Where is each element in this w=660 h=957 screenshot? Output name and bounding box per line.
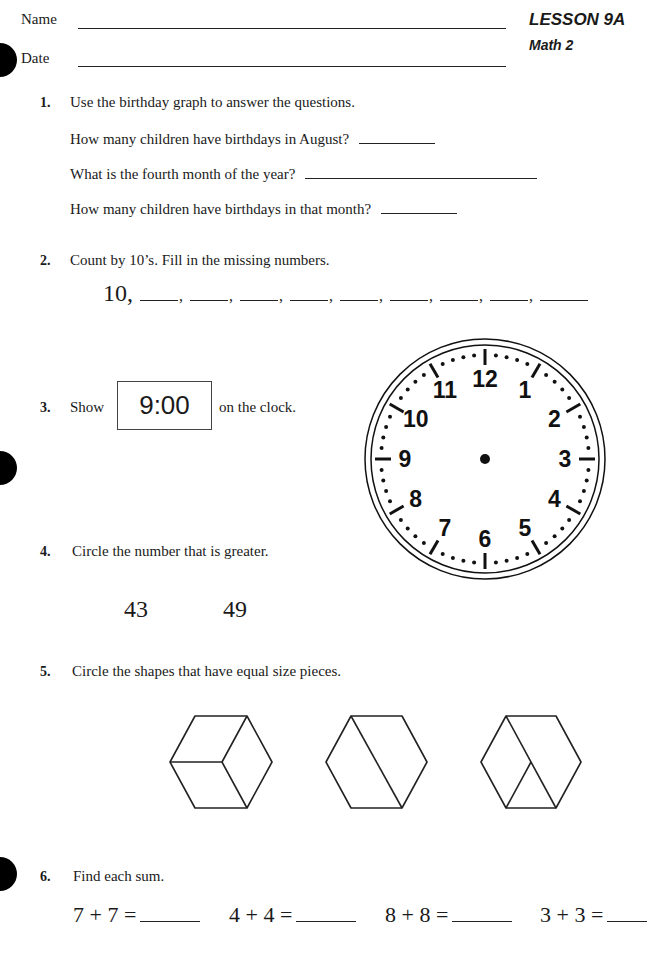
date-label: Date (21, 50, 49, 67)
target-time-box: 9:00 (117, 381, 212, 430)
answer-august-field[interactable] (359, 129, 435, 144)
clock-number-10: 10 (403, 406, 429, 432)
question-1a: How many children have birthdays in Augu… (70, 129, 435, 148)
sum-problem-1: 7 + 7 = (73, 902, 200, 928)
sum-problem-3: 8 + 8 = (385, 902, 512, 928)
number-option-43[interactable]: 43 (124, 596, 148, 623)
hole-punch-top (0, 43, 17, 77)
clock-number-9: 9 (399, 446, 412, 472)
question-5-number: 5. (40, 664, 51, 680)
clock-number-3: 3 (559, 446, 572, 472)
clock-number-11: 11 (433, 377, 458, 403)
lesson-title: LESSON 9A (529, 10, 625, 30)
subject-label: Math 2 (529, 37, 573, 53)
question-6-number: 6. (40, 869, 51, 885)
sequence-blank[interactable] (390, 282, 428, 301)
sum-expression: 8 + 8 = (385, 902, 448, 927)
sequence-blank[interactable] (240, 282, 278, 301)
question-3-show: Show (70, 399, 104, 416)
sum-problem-4: 3 + 3 = (540, 902, 647, 928)
shape-hexagon-3[interactable] (481, 716, 581, 808)
clock-number-12: 12 (472, 366, 498, 392)
shape-hexagon-2[interactable] (326, 716, 427, 808)
sequence-blank[interactable] (440, 282, 478, 301)
question-1b: What is the fourth month of the year? (70, 164, 537, 183)
question-6-prompt: Find each sum. (73, 868, 164, 885)
sequence-blank[interactable] (190, 282, 228, 301)
question-1-prompt: Use the birthday graph to answer the que… (70, 94, 355, 111)
answer-fourth-month-field[interactable] (305, 164, 537, 179)
sum-expression: 4 + 4 = (229, 902, 292, 927)
hole-punch-bottom (0, 857, 17, 891)
clock-number-8: 8 (409, 486, 422, 512)
clock-number-6: 6 (479, 526, 492, 552)
count-sequence: 10, , , , , , , , , (103, 280, 589, 307)
clock-number-1: 1 (519, 377, 532, 403)
sequence-start: 10, (103, 280, 133, 306)
clock-number-2: 2 (548, 406, 561, 432)
question-4-prompt: Circle the number that is greater. (72, 543, 269, 560)
question-1c: How many children have birthdays in that… (70, 199, 457, 218)
sequence-blank[interactable] (290, 282, 328, 301)
date-field[interactable] (78, 66, 506, 67)
question-3-number: 3. (40, 400, 51, 416)
question-2-prompt: Count by 10’s. Fill in the missing numbe… (70, 252, 330, 269)
shape-hexagon-1[interactable] (170, 716, 272, 808)
answer-that-month-field[interactable] (381, 199, 457, 214)
hole-punch-middle (0, 451, 17, 485)
sequence-blank[interactable] (540, 282, 588, 301)
sum-answer-field[interactable] (607, 905, 647, 922)
number-option-49[interactable]: 49 (223, 596, 247, 623)
sum-answer-field[interactable] (140, 905, 200, 922)
clock-number-4: 4 (548, 486, 561, 512)
clock-number-7: 7 (439, 515, 452, 541)
clock-number-5: 5 (519, 515, 532, 541)
question-1b-text: What is the fourth month of the year? (70, 166, 295, 182)
sum-problem-2: 4 + 4 = (229, 902, 356, 928)
question-1-number: 1. (40, 95, 51, 111)
sequence-blank[interactable] (340, 282, 378, 301)
question-3-after: on the clock. (219, 399, 296, 416)
sequence-blank[interactable] (140, 282, 178, 301)
clock-center-dot (480, 454, 490, 464)
question-1a-text: How many children have birthdays in Augu… (70, 131, 349, 147)
sum-expression: 3 + 3 = (540, 902, 603, 927)
question-5-prompt: Circle the shapes that have equal size p… (72, 663, 341, 680)
name-label: Name (21, 11, 57, 28)
sum-answer-field[interactable] (296, 905, 356, 922)
question-1c-text: How many children have birthdays in that… (70, 201, 371, 217)
clock-face[interactable]: 121234567891011 (360, 334, 610, 584)
question-2-number: 2. (40, 253, 51, 269)
name-field[interactable] (78, 28, 506, 29)
sequence-blank[interactable] (490, 282, 528, 301)
sum-answer-field[interactable] (452, 905, 512, 922)
question-4-number: 4. (40, 544, 51, 560)
sum-expression: 7 + 7 = (73, 902, 136, 927)
